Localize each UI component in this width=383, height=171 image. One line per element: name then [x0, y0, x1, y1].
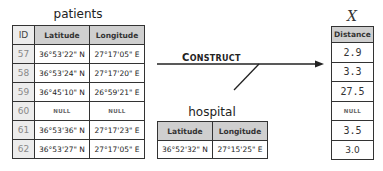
hospital-table: Latitude Longitude 36°52'32" N 27°15'25"… [157, 121, 268, 159]
distance-value: 3.0 [332, 140, 374, 160]
distance-table: Distance 2.9 3.3 27.5 NULL 3.5 3.0 [331, 26, 374, 160]
column-header-latitude: Latitude [158, 122, 213, 141]
distance-value: 3.5 [332, 121, 374, 141]
arrow-head-icon [315, 61, 324, 68]
table-row: 3.3 [332, 62, 374, 82]
table-row: 3.5 [332, 121, 374, 141]
distance-value-null: NULL [332, 101, 374, 121]
table-row: 27.5 [332, 82, 374, 102]
distance-value: 2.9 [332, 43, 374, 63]
hospital-table-title: hospital [157, 105, 267, 119]
column-header-longitude: Longitude [213, 122, 268, 141]
arrow-join-line [234, 64, 259, 90]
distance-value: 27.5 [332, 82, 374, 102]
table-row: 36°52'32" N 27°15'25" E [158, 141, 268, 159]
hospital-longitude: 27°15'25" E [213, 141, 268, 159]
hospital-header-row: Latitude Longitude [158, 122, 268, 141]
distance-value: 3.3 [332, 62, 374, 82]
table-row: 2.9 [332, 43, 374, 63]
result-table-title: X [331, 8, 373, 24]
hospital-latitude: 36°52'32" N [158, 141, 213, 159]
column-header-distance: Distance [332, 27, 374, 43]
table-row: 3.0 [332, 140, 374, 160]
distance-header-row: Distance [332, 27, 374, 43]
table-row: NULL [332, 101, 374, 121]
